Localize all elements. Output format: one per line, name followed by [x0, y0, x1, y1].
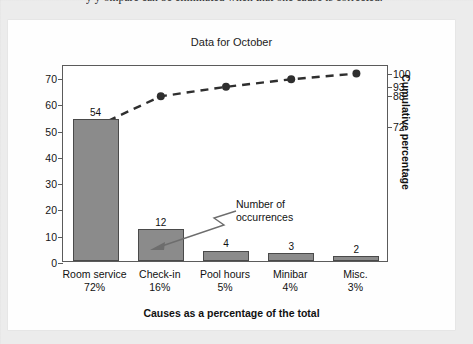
category-label: Misc.3%: [343, 268, 368, 294]
y-axis-tick-mark: [58, 158, 63, 159]
bar-check-in[interactable]: [138, 229, 184, 261]
secondary-y-axis-tick-mark: [387, 127, 392, 128]
bar-value-label: 2: [354, 244, 360, 255]
y-axis-tick-label: 70: [45, 73, 57, 85]
secondary-y-axis-tick-mark: [387, 96, 392, 97]
secondary-y-axis-tick-label: 100: [393, 68, 411, 80]
chart-title: Data for October: [8, 36, 455, 48]
cumulative-point-marker[interactable]: [157, 92, 165, 100]
y-axis-tick-mark: [58, 263, 63, 264]
y-axis-tick-label: 50: [45, 126, 57, 138]
y-axis-tick-mark: [58, 184, 63, 185]
category-percent: 5%: [200, 281, 250, 294]
secondary-y-axis-tick-mark: [387, 74, 392, 75]
bar-value-label: 54: [90, 107, 101, 118]
y-axis-tick-label: 30: [45, 178, 57, 190]
y-axis-tick-mark: [58, 237, 63, 238]
annotation-text: Number ofoccurrences: [236, 198, 293, 224]
secondary-y-axis-tick-label: 93: [393, 81, 405, 93]
secondary-y-axis-tick-label: 72: [393, 121, 405, 133]
y-axis-tick-mark: [58, 79, 63, 80]
y-axis-tick-label: 60: [45, 99, 57, 111]
bar-value-label: 4: [223, 238, 229, 249]
annotation-line-1: Number of: [236, 198, 293, 211]
bar-value-label: 12: [155, 217, 166, 228]
y-axis-tick-label: 0: [51, 257, 57, 269]
plot-inner: 0102030405060707288931005412432: [63, 66, 387, 261]
cumulative-point-marker[interactable]: [287, 75, 295, 83]
category-label: Check-in16%: [139, 268, 180, 294]
category-percent: 72%: [63, 281, 127, 294]
category-percent: 3%: [343, 281, 368, 294]
category-name: Check-in: [139, 268, 180, 281]
page-running-text: y y ompare can be eliminated when that o…: [86, 0, 458, 9]
bar-room-service[interactable]: [73, 119, 119, 261]
category-name: Minibar: [273, 268, 307, 281]
category-percent: 4%: [273, 281, 307, 294]
bar-misc[interactable]: [333, 256, 379, 261]
category-name: Misc.: [343, 268, 368, 281]
category-name: Pool hours: [200, 268, 250, 281]
y-axis-tick-label: 10: [45, 231, 57, 243]
category-label: Pool hours5%: [200, 268, 250, 294]
cumulative-point-marker[interactable]: [222, 83, 230, 91]
annotation-line-2: occurrences: [236, 211, 293, 224]
cumulative-percentage-line: [96, 74, 357, 127]
category-label: Room service72%: [63, 268, 127, 294]
bar-minibar[interactable]: [268, 253, 314, 261]
x-axis-title: Causes as a percentage of the total: [8, 307, 455, 319]
bar-pool-hours[interactable]: [203, 251, 249, 262]
y-axis-tick-mark: [58, 132, 63, 133]
y-axis-tick-mark: [58, 105, 63, 106]
category-percent: 16%: [139, 281, 180, 294]
figure-card: Data for October Frequency (number) Cumu…: [8, 20, 455, 330]
page-running-text-line: y y ompare can be eliminated when that o…: [86, 0, 383, 3]
y-axis-tick-mark: [58, 210, 63, 211]
bar-value-label: 3: [288, 241, 294, 252]
category-name: Room service: [63, 268, 127, 281]
y-axis-tick-label: 40: [45, 152, 57, 164]
plot-area: 0102030405060707288931005412432: [62, 65, 388, 262]
cumulative-point-marker[interactable]: [352, 70, 360, 78]
secondary-y-axis-tick-mark: [387, 87, 392, 88]
category-label: Minibar4%: [273, 268, 307, 294]
y-axis-tick-label: 20: [45, 204, 57, 216]
